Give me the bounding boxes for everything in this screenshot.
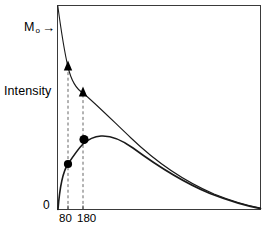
plot-canvas [0, 0, 262, 243]
figure-root: Intensity Mo → 0 80 180 [0, 0, 262, 243]
y-axis-label: Intensity [4, 85, 51, 98]
plot-frame [58, 6, 261, 210]
x-tick-label-180: 180 [77, 213, 96, 225]
m0-label-base: M [24, 21, 34, 34]
markers-triangle-group [64, 61, 87, 97]
xticks-group [68, 206, 83, 210]
y-axis-origin-label: 0 [43, 199, 50, 211]
series-buildup-decay-curve [58, 136, 261, 210]
m0-annotation: Mo → [24, 21, 54, 34]
data-point-triangle-x80 [64, 61, 72, 71]
x-tick-label-80: 80 [59, 213, 72, 225]
data-point-circle-x180 [79, 135, 88, 144]
m0-label-subscript: o [35, 27, 39, 35]
series-decay-curve [58, 6, 261, 208]
data-point-circle-x80 [64, 160, 72, 168]
right-arrow-icon: → [42, 21, 55, 34]
